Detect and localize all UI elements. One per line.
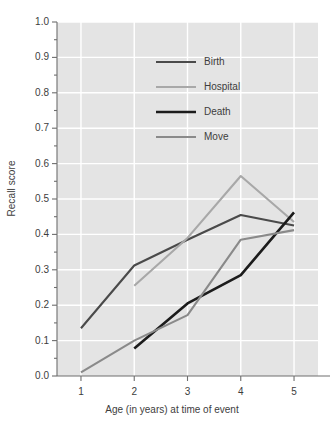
- x-axis-title: Age (in years) at time of event: [22, 404, 322, 415]
- recall-score-line-chart: Recall score 0.00.10.20.30.40.50.60.70.8…: [0, 0, 333, 436]
- plot-area: [0, 0, 333, 436]
